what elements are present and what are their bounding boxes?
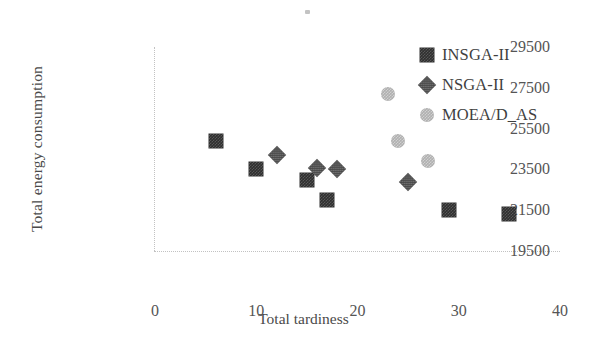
diamond-marker-icon bbox=[418, 76, 436, 94]
y-axis-line bbox=[154, 47, 155, 251]
y-tick-label: 19500 bbox=[470, 242, 550, 260]
legend-swatch bbox=[420, 108, 434, 122]
x-axis-title: Total tardiness bbox=[0, 310, 607, 328]
legend-item-moea-d-as[interactable]: MOEA/D_AS bbox=[418, 100, 537, 130]
y-axis-title: Total energy consumption bbox=[28, 34, 46, 264]
data-point-square bbox=[208, 133, 223, 148]
x-tick-label: 0 bbox=[135, 302, 175, 320]
legend-swatch bbox=[420, 48, 435, 63]
scan-artifact-speck bbox=[305, 10, 310, 14]
legend-swatch bbox=[418, 76, 436, 94]
legend-item-nsga-ii[interactable]: NSGA-II bbox=[418, 70, 537, 100]
data-point-diamond bbox=[328, 160, 346, 178]
data-point-square bbox=[320, 193, 335, 208]
data-point-square bbox=[299, 172, 314, 187]
x-tick-label: 30 bbox=[439, 302, 479, 320]
data-point-diamond bbox=[399, 172, 417, 190]
y-tick-label: 23500 bbox=[470, 160, 550, 178]
data-point-circle bbox=[381, 87, 395, 101]
x-tick-label: 20 bbox=[338, 302, 378, 320]
circle-marker-icon bbox=[418, 106, 436, 124]
data-point-square bbox=[502, 207, 517, 222]
data-point-diamond bbox=[267, 146, 285, 164]
square-marker-icon bbox=[418, 46, 436, 64]
legend-item-label: MOEA/D_AS bbox=[442, 105, 537, 125]
data-point-circle bbox=[421, 154, 435, 168]
data-point-square bbox=[441, 203, 456, 218]
data-point-circle bbox=[391, 134, 405, 148]
legend-item-label: NSGA-II bbox=[442, 75, 504, 95]
legend: INSGA-IINSGA-IIMOEA/D_AS bbox=[418, 40, 537, 130]
legend-item-label: INSGA-II bbox=[442, 45, 510, 65]
legend-item-insga-ii[interactable]: INSGA-II bbox=[418, 40, 537, 70]
data-point-square bbox=[249, 162, 264, 177]
scatter-chart: Total energy consumption Total tardiness… bbox=[0, 0, 607, 346]
x-tick-label: 10 bbox=[236, 302, 276, 320]
x-tick-label: 40 bbox=[540, 302, 580, 320]
